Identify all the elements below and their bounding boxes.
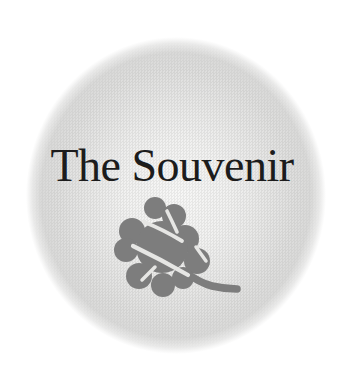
logo-canvas: The Souvenir (0, 0, 344, 369)
leaf-icon (100, 189, 250, 304)
logo-badge: The Souvenir (26, 37, 326, 354)
leaf-stem (185, 272, 237, 289)
logo-title: The Souvenir (22, 143, 322, 189)
